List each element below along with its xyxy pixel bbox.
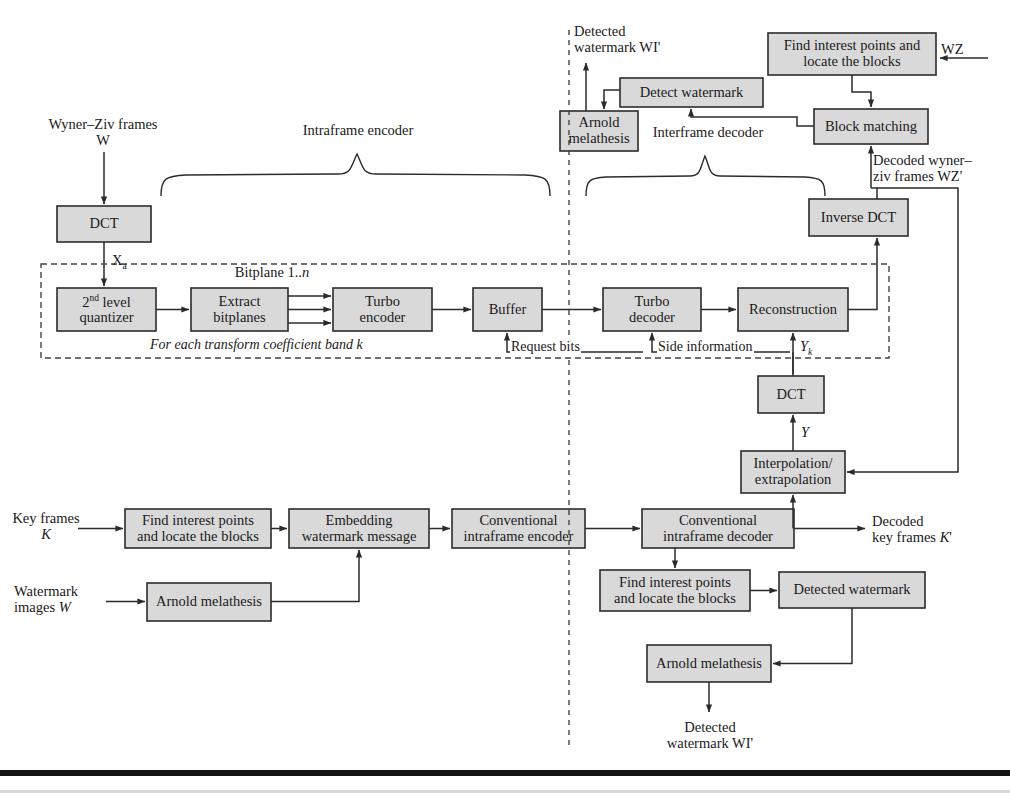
- block-find_points_key[interactable]: [125, 509, 271, 548]
- label-wyner-ziv-frames-line1: Wyner–Ziv frames: [18, 116, 188, 132]
- label-detected-watermark-bottom: Detected watermark WI': [645, 719, 775, 751]
- watermark-images-line1: Watermark: [14, 583, 110, 599]
- bottom-rule: [0, 770, 1010, 776]
- line-inversedct-top: [871, 188, 877, 199]
- label-key-frames: Key frames K: [10, 510, 82, 542]
- block-find_points_dec[interactable]: [600, 570, 750, 611]
- key-frames-line1: Key frames: [10, 510, 82, 526]
- decoded-key-line2: key frames K': [872, 529, 992, 545]
- label-wyner-ziv-frames-line2: W: [18, 132, 188, 148]
- block-inverse_dct[interactable]: [809, 199, 908, 236]
- block-detect_watermark[interactable]: [620, 78, 763, 107]
- arrow-findpoints-to-blockmatching: [852, 75, 871, 107]
- block-conv_intra_enc[interactable]: [452, 509, 585, 548]
- label-x-a: Xa: [112, 252, 127, 272]
- detected-bottom-line2: watermark WI': [645, 735, 775, 751]
- caption-sliver: [0, 790, 1010, 793]
- key-frames-line2: K: [10, 526, 82, 542]
- arrow-arnold-to-embedding: [271, 550, 359, 602]
- label-y-k: Yk: [800, 338, 812, 358]
- decoded-wz-line1: Decoded wyner–: [873, 152, 993, 168]
- block-find_points_wz[interactable]: [768, 33, 936, 75]
- label-wz-input: WZ: [941, 41, 964, 57]
- block-turbo_encoder[interactable]: [333, 288, 432, 331]
- decoded-key-line1: Decoded: [872, 513, 992, 529]
- label-for-each-band: For each transform coefficient band k: [150, 337, 363, 353]
- detected-top-line1: Detected: [574, 23, 694, 39]
- label-y: Y: [801, 424, 809, 440]
- block-dct_enc[interactable]: [57, 206, 151, 242]
- block-arnold_top[interactable]: [560, 111, 638, 151]
- block-interpolation[interactable]: [741, 451, 845, 493]
- figure-canvas: DCT2nd levelquantizerExtractbitplanesTur…: [0, 0, 1010, 797]
- block-arnold_bottom_enc[interactable]: [147, 583, 271, 621]
- decoded-wz-line2: ziv frames WZ': [873, 168, 993, 184]
- block-extract_bitplanes[interactable]: [191, 288, 288, 331]
- label-interframe-decoder: Interframe decoder: [634, 124, 782, 141]
- detected-top-line2: watermark WI': [574, 39, 694, 55]
- label-decoded-key-frames: Decoded key frames K': [872, 513, 992, 545]
- block-dct_dec[interactable]: [758, 376, 824, 413]
- block-detected_watermark[interactable]: [779, 572, 925, 608]
- label-bitplane: Bitplane 1..n: [192, 264, 352, 280]
- label-detected-watermark-top: Detected watermark WI': [574, 23, 694, 55]
- arrow-detectedwatermark-to-arnoldbottom: [773, 608, 852, 664]
- block-conv_intra_dec[interactable]: [642, 509, 794, 548]
- block-arnold_bottom_dec[interactable]: [647, 645, 771, 682]
- block-reconstruction[interactable]: [738, 288, 848, 331]
- arrow-reconstruction-to-inversedct: [848, 238, 877, 310]
- label-watermark-images: Watermark images W: [14, 583, 110, 615]
- intraframe-encoder-brace: [161, 154, 550, 196]
- interframe-decoder-brace: [586, 156, 825, 196]
- block-quantizer[interactable]: [57, 288, 156, 331]
- label-intraframe-encoder: Intraframe encoder: [280, 122, 436, 139]
- arrow-detectwatermark-to-arnold: [604, 90, 620, 109]
- block-turbo_decoder[interactable]: [603, 288, 701, 331]
- label-wyner-ziv-frames: Wyner–Ziv frames W: [18, 116, 188, 148]
- watermark-images-line2: images W: [14, 599, 110, 615]
- label-request-bits: Request bits: [510, 339, 581, 355]
- label-decoded-wz-frames: Decoded wyner– ziv frames WZ': [873, 152, 993, 184]
- label-side-information: Side information: [657, 339, 754, 355]
- block-buffer[interactable]: [473, 288, 542, 331]
- detected-bottom-line1: Detected: [645, 719, 775, 735]
- block-embedding[interactable]: [289, 509, 429, 548]
- block-block_matching[interactable]: [814, 109, 928, 144]
